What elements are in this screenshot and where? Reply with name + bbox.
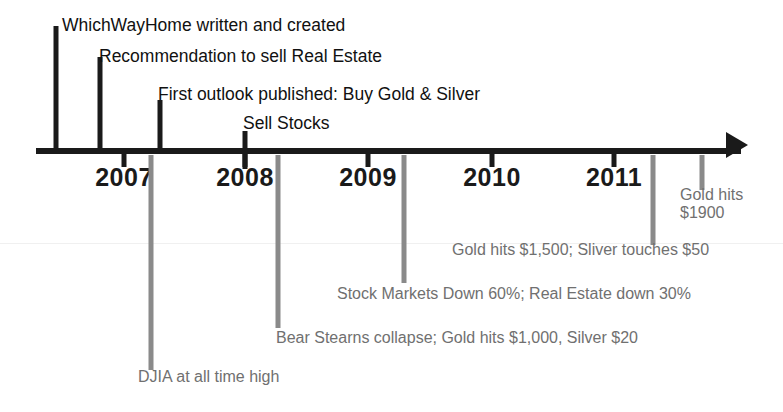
event-label-gold-1900: Gold hits $1900 [680, 186, 743, 222]
event-marker-first-outlook [158, 100, 163, 150]
year-label-2010: 2010 [463, 163, 521, 192]
event-label-bear-stearns: Bear Stearns collapse; Gold hits $1,000,… [276, 329, 638, 347]
event-marker-gold-1900 [700, 155, 705, 190]
timeline-axis-line [36, 148, 741, 154]
event-label-gold-1500: Gold hits $1,500; Sliver touches $50 [452, 241, 709, 259]
event-label-sell-real-estate: Recommendation to sell Real Estate [99, 46, 382, 67]
event-marker-stock-markets-down [402, 155, 407, 283]
event-marker-djia-high [149, 155, 154, 370]
event-label-djia-high: DJIA at all time high [138, 368, 279, 386]
year-label-2007: 2007 [95, 163, 153, 192]
event-label-gold-1900-line2: $1900 [680, 204, 743, 222]
event-marker-gold-1500 [651, 155, 656, 245]
timeline-figure: 2007 2008 2009 2010 2011 WhichWayHome wr… [0, 0, 783, 412]
event-marker-sell-real-estate [98, 57, 103, 150]
event-label-first-outlook: First outlook published: Buy Gold & Silv… [158, 84, 480, 105]
event-marker-whichwayhome [54, 26, 59, 150]
event-marker-bear-stearns [276, 155, 281, 328]
year-label-2009: 2009 [339, 163, 397, 192]
year-label-2011: 2011 [586, 163, 642, 192]
timeline-arrow-icon [726, 132, 748, 158]
event-label-sell-stocks: Sell Stocks [243, 113, 330, 134]
event-label-stock-markets-down: Stock Markets Down 60%; Real Estate down… [337, 285, 691, 303]
event-label-whichwayhome: WhichWayHome written and created [62, 15, 345, 36]
event-label-gold-1900-line1: Gold hits [680, 186, 743, 203]
event-marker-sell-stocks [243, 131, 248, 169]
